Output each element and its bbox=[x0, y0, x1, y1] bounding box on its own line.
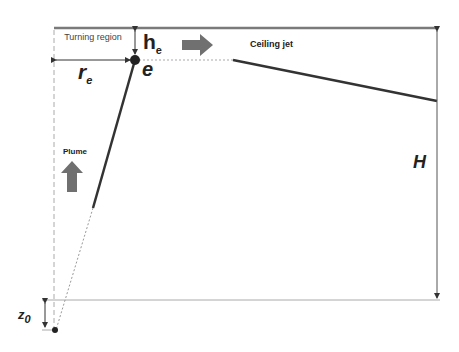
ceiling-jet-boundary-line bbox=[233, 60, 437, 101]
he-label: he bbox=[143, 30, 162, 56]
plume-boundary-line bbox=[93, 60, 135, 208]
ceiling-jet-arrow-icon bbox=[182, 34, 213, 56]
e-label: e bbox=[142, 58, 153, 81]
re-label: re bbox=[78, 60, 92, 86]
ceiling-jet-label: Ceiling jet bbox=[250, 39, 293, 49]
turning-point-e bbox=[130, 55, 140, 65]
plume-extension-line bbox=[56, 208, 93, 330]
plume-ceiling-jet-diagram bbox=[0, 0, 459, 352]
z0-label: z0 bbox=[18, 307, 31, 325]
plume-label: Plume bbox=[63, 147, 87, 156]
plume-arrow-icon bbox=[61, 161, 83, 192]
virtual-origin-point bbox=[52, 327, 58, 333]
turning-region-label: Turning region bbox=[58, 31, 128, 43]
H-label: H bbox=[413, 152, 426, 173]
